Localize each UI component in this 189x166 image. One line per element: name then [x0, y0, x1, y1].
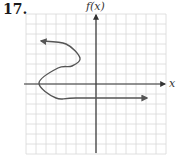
axes [24, 15, 165, 153]
graph-plot [0, 0, 189, 166]
curve-line [39, 41, 147, 99]
